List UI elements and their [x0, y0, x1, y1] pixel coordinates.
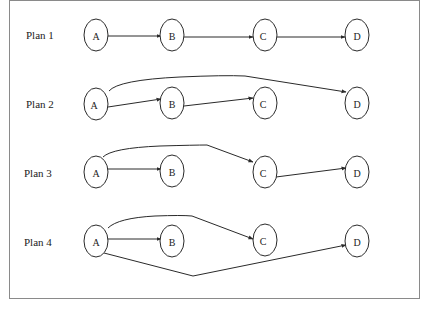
svg-text:C: C — [260, 236, 267, 247]
plan-3-node-b: B — [160, 155, 184, 187]
plan-2-label: Plan 2 — [26, 98, 54, 110]
svg-text:C: C — [260, 99, 267, 110]
svg-text:A: A — [92, 168, 100, 179]
svg-text:B: B — [169, 167, 176, 178]
plan-3-node-d: D — [345, 156, 369, 188]
plan-1-node-d: D — [345, 19, 369, 51]
plan-2-node-d: D — [345, 87, 369, 119]
svg-text:A: A — [90, 100, 98, 111]
svg-text:C: C — [260, 168, 267, 179]
svg-text:A: A — [92, 31, 100, 42]
svg-text:D: D — [353, 237, 360, 248]
svg-text:D: D — [353, 168, 360, 179]
plan-1-node-c: C — [253, 19, 277, 51]
plan-4-node-a: A — [84, 225, 108, 257]
svg-text:D: D — [353, 31, 360, 42]
plan-1-node-b: B — [160, 19, 184, 51]
plan-2-node-b: B — [160, 87, 184, 119]
plan-1-node-a: A — [84, 19, 108, 51]
svg-text:C: C — [260, 31, 267, 42]
plan-4-node-c: C — [253, 224, 277, 256]
plan-4-node-b: B — [160, 225, 184, 257]
plan-1-label: Plan 1 — [26, 29, 54, 41]
svg-text:D: D — [353, 99, 360, 110]
svg-text:B: B — [169, 31, 176, 42]
svg-text:B: B — [169, 237, 176, 248]
plans-diagram: Plan 1 A B C D Plan 2 A — [0, 0, 434, 309]
svg-text:A: A — [92, 237, 100, 248]
plan-4-node-d: D — [345, 225, 369, 257]
plan-3-node-c: C — [253, 156, 277, 188]
plan-3-node-a: A — [84, 156, 108, 188]
plan-4-label: Plan 4 — [24, 236, 52, 248]
plan-2-node-c: C — [253, 87, 277, 119]
plan-2-node-a: A — [84, 88, 108, 120]
plan-3-label: Plan 3 — [24, 167, 52, 179]
svg-text:B: B — [169, 99, 176, 110]
